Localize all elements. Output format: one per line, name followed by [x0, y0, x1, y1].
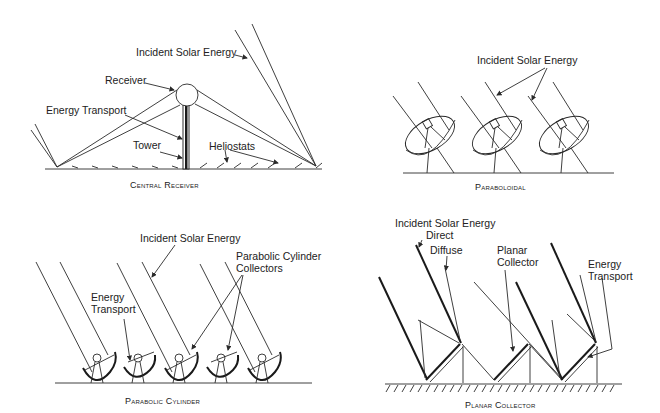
collector-4 [207, 352, 238, 383]
planar-transport-label-line1: Energy [588, 258, 621, 270]
central-heliostats-label: Heliostats [209, 140, 255, 152]
paraboloidal-drawing [393, 68, 614, 173]
planar-collector-caption: Planar Collector [465, 400, 535, 410]
central-tower-label: Tower [133, 139, 161, 151]
central-incident-label: Incident Solar Energy [136, 46, 236, 58]
planar-transport-label-line2: Transport [588, 270, 633, 282]
cylinder-transport-label-line1: Energy [91, 291, 124, 303]
cylinder-collectors-label-line2: Collectors [236, 262, 283, 274]
collector-2 [124, 352, 155, 383]
paraboloidal-caption: Paraboloidal [475, 182, 526, 192]
cylinder-transport-label-line2: Transport [91, 303, 136, 315]
planar-direct-label: Direct [426, 229, 453, 241]
planar-collector-label-line2: Collector [497, 256, 538, 268]
cylinder-collectors-label-line1: Parabolic Cylinder [236, 250, 321, 262]
paraboloidal-incident-label: Incident Solar Energy [477, 54, 577, 66]
collector-1 [83, 352, 116, 383]
central-receiver-caption: Central Receiver [130, 180, 199, 190]
cylinder-incident-label: Incident Solar Energy [140, 232, 240, 244]
central-energy-transport-label: Energy Transport [46, 104, 127, 116]
planar-diffuse-label: Diffuse [430, 244, 463, 256]
parabolic-cylinder-caption: Parabolic Cylinder [125, 396, 200, 406]
planar-collector-label-line1: Planar [497, 244, 527, 256]
central-receiver-label: Receiver [105, 74, 146, 86]
planar-incident-label: Incident Solar Energy [395, 217, 495, 229]
